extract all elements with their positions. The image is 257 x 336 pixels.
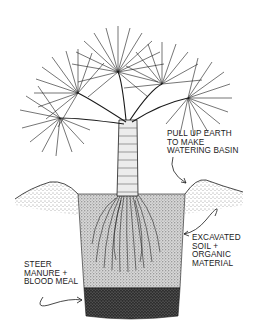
palm-stems — [60, 72, 188, 124]
manure-label: STEER MANURE + BLOOD MEAL — [24, 261, 78, 287]
excavated-soil-label: EXCAVATED SOIL + ORGANIC MATERIAL — [192, 234, 241, 268]
manure-arrow — [40, 297, 82, 306]
watering-basin-label: PULL UP EARTH TO MAKE WATERING BASIN — [167, 130, 238, 156]
palm-trunk — [117, 120, 138, 196]
watering-basin-arrow — [172, 157, 186, 183]
